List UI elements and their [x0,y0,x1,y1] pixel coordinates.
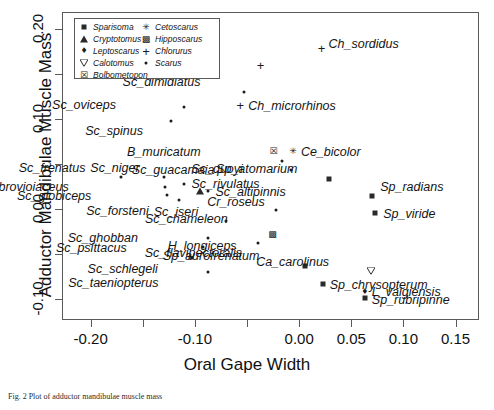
point-label: Sp_radians [380,180,443,194]
point-label: B_muricatum [127,145,201,159]
legend-label: Bolbometopon [93,70,148,80]
x-tick [351,320,352,327]
point-label: Sc_spinus [85,124,143,138]
point-label: Sc_oviceps [52,98,116,112]
x-tick-label: -0.10 [165,330,225,347]
legend-label: Chlorurus [155,46,192,56]
point-label: Ch_sordidus [329,37,399,51]
x-tick [247,320,248,327]
point-label: Sc_taeniopterus [68,276,158,290]
point-label: Sp_viride [383,207,435,221]
point-label: Ca_carolinus [256,255,329,269]
y-tick [55,74,62,75]
x-tick [195,320,196,327]
point-label: Sp_aurofrenatum [163,249,260,263]
y-tick-label: 0.20 [29,6,46,52]
x-axis-title: Oral Gape Width [0,355,494,375]
figure: Adductor Mandibulae Muscle Mass Oral Gap… [0,0,494,410]
legend-label: Sparisoma [93,22,134,32]
point-label: Sc_iseri [154,205,198,219]
x-tick-label: -0.20 [61,330,121,347]
x-tick-label: 0.15 [426,330,486,347]
legend-label: Hipposcarus [155,34,202,44]
x-tick-label: 0.10 [373,330,433,347]
y-tick [55,119,62,120]
point-label: Sc_frenatus [19,161,86,175]
legend-label: Calotomus [93,58,134,68]
point-label: Cr_roseus [207,195,265,209]
figure-caption: Fig. 2 Plot of adductor mandibulae muscl… [8,392,308,408]
legend-label: Cetoscarus [155,22,198,32]
y-tick [55,299,62,300]
point-label: Ce_bicolor [301,145,361,159]
legend-label: Scarus [155,58,181,68]
x-tick-label: 0.00 [269,330,329,347]
point-label: Sc_niger [90,161,139,175]
y-tick [55,209,62,210]
x-tick [456,320,457,327]
point-label: Sc_globiceps [17,189,91,203]
y-tick-label: 0.10 [29,96,46,142]
y-tick [55,29,62,30]
point-label: Sc_psittacus [56,241,127,255]
x-tick-label: 0.05 [321,330,381,347]
legend-label: Leptoscarus [93,46,139,56]
x-tick [143,320,144,327]
point-label: Sc_forsteni [86,204,149,218]
legend-label: Cryptotomus [93,34,141,44]
y-tick-label: -0.10 [29,275,46,321]
point-label: Sp_rubripinne [372,293,450,307]
x-tick [403,320,404,327]
point-label: Ch_microrhinos [248,99,336,113]
point-label: Sp_atomarium [216,162,297,176]
x-tick [91,320,92,327]
legend: SparisomaCryptotomus♦LeptoscarusCalotomu… [74,18,220,79]
x-tick [299,320,300,327]
point-label: Sc_schlegeli [88,262,158,276]
